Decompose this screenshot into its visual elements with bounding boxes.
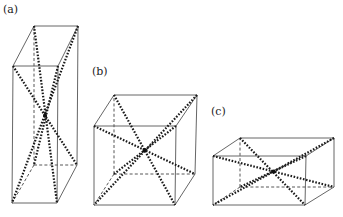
box-a (12, 26, 78, 203)
edge (57, 165, 77, 203)
edge (195, 95, 197, 174)
panel-label-b: (b) (92, 66, 108, 77)
box-c (213, 138, 334, 205)
edge (213, 138, 240, 156)
edge (12, 66, 13, 203)
edge (13, 26, 34, 66)
edge (94, 95, 114, 126)
edge (175, 174, 195, 205)
edge (305, 187, 334, 205)
panel-label-a: (a) (3, 4, 18, 15)
edge (77, 26, 78, 165)
box-b (94, 95, 197, 205)
center-point (43, 114, 47, 118)
hidden-edge (213, 187, 240, 205)
edge (176, 95, 197, 126)
center-point (272, 170, 276, 174)
figure-canvas (0, 0, 343, 217)
panel-label-c: (c) (211, 106, 226, 117)
center-point (143, 148, 147, 152)
